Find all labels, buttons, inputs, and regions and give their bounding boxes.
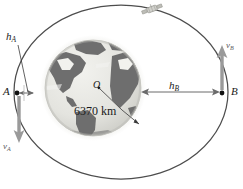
- earth-center-label: O: [93, 80, 100, 90]
- velocity-b-label: vB: [226, 41, 234, 51]
- point-a-label: A: [3, 86, 10, 97]
- double-arrow-horizontal-icon: [141, 89, 220, 96]
- diagram-canvas: [0, 0, 243, 189]
- point-dot-icon[interactable]: [15, 91, 20, 96]
- altitude-a-subscript: A: [12, 35, 17, 44]
- altitude-b-subscript: B: [175, 84, 180, 93]
- velocity-a-subscript: A: [7, 146, 11, 152]
- altitude-b-label: hB: [169, 80, 179, 93]
- altitude-a-label: hA: [6, 31, 16, 44]
- arrow-up-icon: [217, 45, 228, 90]
- velocity-a-label: vA: [3, 142, 11, 152]
- earth-radius-label: 6370 km: [74, 105, 116, 117]
- satellite-icon: [140, 1, 162, 15]
- orbit-diagram: A B hA hB vA vB O 6370 km: [0, 0, 243, 189]
- velocity-b-subscript: B: [230, 45, 234, 51]
- point-b-label: B: [231, 86, 238, 97]
- point-dot-icon[interactable]: [220, 91, 225, 96]
- double-arrow-horizontal-icon: [19, 85, 33, 101]
